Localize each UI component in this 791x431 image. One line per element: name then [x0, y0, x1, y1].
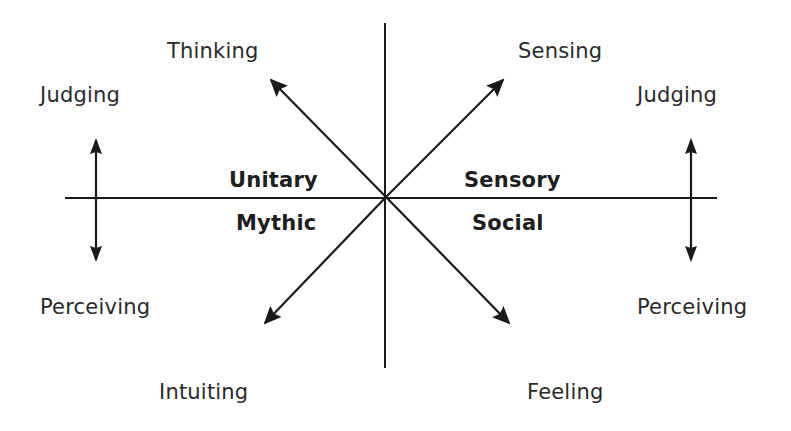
label-thinking: Thinking [167, 41, 259, 62]
label-perceiving-left: Perceiving [40, 297, 150, 318]
diagram-lines [0, 0, 791, 431]
label-judging-left: Judging [40, 85, 120, 106]
quadrant-label-social: Social [472, 213, 544, 234]
label-perceiving-right: Perceiving [637, 297, 747, 318]
quadrant-label-sensory: Sensory [464, 170, 561, 191]
label-feeling: Feeling [527, 382, 603, 403]
label-sensing: Sensing [518, 41, 602, 62]
diagram-canvas: Thinking Sensing Judging Judging Perceiv… [0, 0, 791, 431]
label-intuiting: Intuiting [159, 382, 248, 403]
label-judging-right: Judging [637, 85, 717, 106]
quadrant-label-unitary: Unitary [229, 170, 318, 191]
quadrant-label-mythic: Mythic [236, 213, 316, 234]
